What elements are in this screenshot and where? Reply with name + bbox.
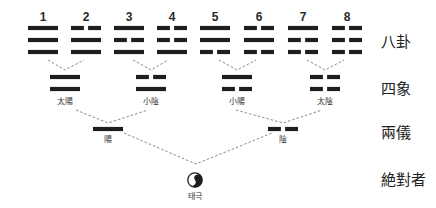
eight-trigrams: 12345678 <box>28 10 362 54</box>
trigram-number: 1 <box>40 10 47 24</box>
taiji-icon <box>187 173 205 190</box>
trigram-5: 5 <box>200 10 230 54</box>
image-line-yang <box>222 75 252 79</box>
trigram-line-yang <box>244 38 274 42</box>
connector-line <box>48 60 84 70</box>
level-labels: 八卦 四象 兩儀 絶對者 <box>381 33 426 189</box>
trigram-line-yin <box>288 38 318 42</box>
image-line-yin <box>136 75 166 79</box>
image-line-yang <box>136 87 166 91</box>
four-image-item: 小陽 <box>222 75 252 106</box>
trigram-line-yang <box>71 50 101 54</box>
trigram-line-yang <box>200 26 230 30</box>
trigram-number: 6 <box>256 10 263 24</box>
two-mode-item: 陽 <box>93 127 123 144</box>
trigram-6: 6 <box>244 10 274 54</box>
two-mode-label: 陰 <box>279 134 287 144</box>
trigram-line-yin <box>71 26 101 30</box>
trigram-line-yin <box>332 38 362 42</box>
connector-line <box>76 110 148 123</box>
trigram-number: 2 <box>83 10 90 24</box>
trigram-line-yang <box>28 26 58 30</box>
trigram-line-yang <box>28 38 58 42</box>
four-image-label: 小陰 <box>143 96 159 106</box>
trigram-line-yin <box>332 50 362 54</box>
image-line-yang <box>50 87 80 91</box>
level-label-sixiang: 四象 <box>381 80 411 98</box>
trigram-line-yin <box>332 26 362 30</box>
four-image-item: 太陽 <box>50 75 80 106</box>
trigram-line-yang <box>200 38 230 42</box>
connector-line <box>307 60 344 70</box>
trigram-number: 4 <box>169 10 176 24</box>
image-line-yin <box>222 87 252 91</box>
trigram-line-yin <box>157 38 187 42</box>
mode-line-yang <box>93 127 123 131</box>
trigram-line-yang <box>114 50 144 54</box>
trigram-1: 1 <box>28 10 58 54</box>
image-line-yin <box>310 75 340 79</box>
trigram-line-yin <box>114 38 144 42</box>
trigram-number: 8 <box>344 10 351 24</box>
trigram-line-yin <box>244 26 274 30</box>
trigram-number: 3 <box>126 10 133 24</box>
trigram-derivation-diagram: 12345678 太陽小陰小陽太陰 陽陰 태극 八卦 四象 兩儀 絶對者 <box>0 0 436 208</box>
trigram-line-yang <box>114 26 144 30</box>
two-modes: 陽陰 <box>93 127 298 144</box>
mode-line-yin <box>268 127 298 131</box>
trigram-line-yang <box>157 50 187 54</box>
trigram-line-yang <box>71 38 101 42</box>
connector-line <box>124 133 272 164</box>
connector-line <box>219 60 256 70</box>
trigram-number: 7 <box>300 10 307 24</box>
taegeuk-origin: 태극 <box>187 173 205 201</box>
level-label-absolute: 絶對者 <box>381 171 426 189</box>
trigram-8: 8 <box>332 10 362 54</box>
four-image-item: 小陰 <box>136 75 166 106</box>
connector-lines <box>48 60 344 164</box>
four-image-item: 太陰 <box>310 75 340 106</box>
level-label-bagua: 八卦 <box>381 33 411 51</box>
two-mode-item: 陰 <box>268 127 298 144</box>
trigram-line-yin <box>200 50 230 54</box>
two-mode-label: 陽 <box>104 135 112 144</box>
trigram-line-yin <box>288 50 318 54</box>
trigram-number: 5 <box>212 10 219 24</box>
image-line-yang <box>50 75 80 79</box>
level-label-liangyi: 兩儀 <box>381 124 411 142</box>
connector-line <box>133 60 168 70</box>
trigram-7: 7 <box>288 10 318 54</box>
four-image-label: 太陰 <box>317 96 333 106</box>
connector-line <box>236 110 322 123</box>
taegeuk-label: 태극 <box>188 192 202 201</box>
trigram-line-yang <box>28 50 58 54</box>
four-image-label: 太陽 <box>57 96 73 106</box>
trigram-4: 4 <box>157 10 187 54</box>
trigram-2: 2 <box>71 10 101 54</box>
trigram-3: 3 <box>114 10 144 54</box>
four-images: 太陽小陰小陽太陰 <box>50 75 340 106</box>
trigram-line-yin <box>157 26 187 30</box>
trigram-line-yin <box>244 50 274 54</box>
four-image-label: 小陽 <box>229 97 245 106</box>
image-line-yin <box>310 87 340 91</box>
trigram-line-yang <box>288 26 318 30</box>
